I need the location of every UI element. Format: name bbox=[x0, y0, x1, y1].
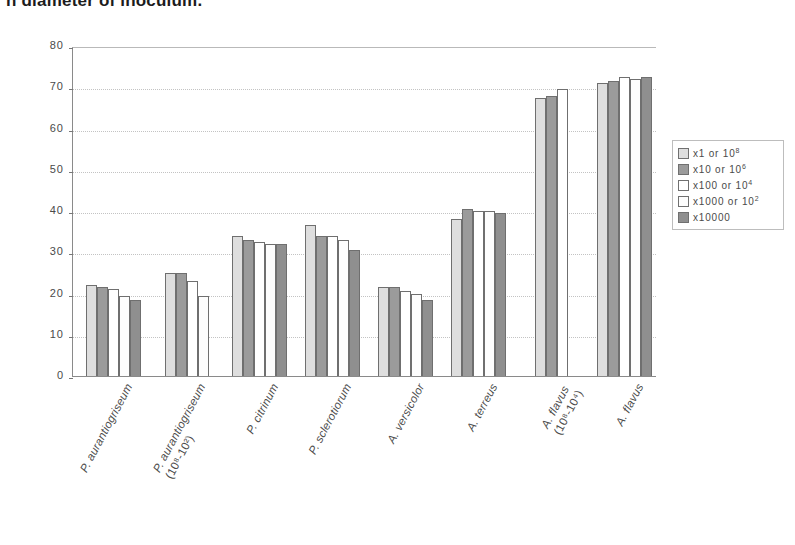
legend-item[interactable]: x1 or 108 bbox=[678, 146, 779, 160]
bar bbox=[451, 219, 462, 376]
x-axis-label: P. sclerotiorum bbox=[305, 381, 354, 457]
bar bbox=[276, 244, 287, 376]
bar bbox=[546, 96, 557, 377]
y-tick-label: 20 bbox=[24, 287, 64, 299]
y-tick-label: 50 bbox=[24, 163, 64, 175]
bar-group bbox=[451, 48, 506, 376]
bar bbox=[176, 273, 187, 376]
x-axis-labels: P. aurantiogriseumP. aurantiogriseum(10⁸… bbox=[72, 381, 656, 541]
y-tick-label: 70 bbox=[24, 80, 64, 92]
figure-panel: n diameter of inoculum. Colony diameter … bbox=[0, 0, 795, 545]
bar bbox=[400, 291, 411, 376]
x-axis-label: A. flavus bbox=[612, 381, 646, 428]
bar bbox=[130, 300, 141, 376]
bar bbox=[349, 250, 360, 376]
bar bbox=[378, 287, 389, 376]
bar bbox=[597, 83, 608, 376]
bar bbox=[316, 236, 327, 376]
bar-group bbox=[305, 48, 360, 376]
bar-group bbox=[535, 48, 568, 376]
bar-group bbox=[86, 48, 141, 376]
bar bbox=[198, 296, 209, 376]
legend-label: x10000 bbox=[693, 212, 731, 223]
legend-label: x10 or 106 bbox=[693, 163, 747, 175]
bar bbox=[119, 296, 130, 376]
bar bbox=[338, 240, 349, 376]
bar bbox=[108, 289, 119, 376]
bar bbox=[484, 211, 495, 376]
bar bbox=[422, 300, 433, 376]
bar bbox=[619, 77, 630, 376]
bar bbox=[389, 287, 400, 376]
chart-legend: x1 or 108x10 or 106x100 or 104x1000 or 1… bbox=[672, 140, 784, 230]
x-axis-label: P. aurantiogriseum(10⁸-10²) bbox=[149, 381, 220, 481]
legend-swatch-icon bbox=[678, 180, 689, 191]
x-axis-label: P. citrinum bbox=[243, 381, 281, 436]
bar bbox=[187, 281, 198, 376]
y-tick-label: 40 bbox=[24, 204, 64, 216]
bar bbox=[86, 285, 97, 376]
bar bbox=[243, 240, 254, 376]
y-tick-label: 60 bbox=[24, 122, 64, 134]
bar bbox=[305, 225, 316, 376]
legend-item[interactable]: x1000 or 102 bbox=[678, 194, 779, 208]
legend-item[interactable]: x100 or 104 bbox=[678, 178, 779, 192]
legend-swatch-icon bbox=[678, 212, 689, 223]
y-tick-label: 10 bbox=[24, 328, 64, 340]
y-axis-ticks: 80706050403020100 bbox=[16, 47, 64, 377]
bar bbox=[97, 287, 108, 376]
legend-item[interactable]: x10 or 106 bbox=[678, 162, 779, 176]
plot-area bbox=[72, 47, 656, 377]
bar-groups bbox=[73, 48, 656, 376]
legend-swatch-icon bbox=[678, 148, 689, 159]
legend-label: x1 or 108 bbox=[693, 147, 740, 159]
bar bbox=[411, 294, 422, 377]
bar bbox=[254, 242, 265, 376]
bar bbox=[630, 79, 641, 376]
y-tick-label: 0 bbox=[24, 369, 64, 381]
legend-label: x100 or 104 bbox=[693, 179, 753, 191]
bar bbox=[327, 236, 338, 376]
bar bbox=[495, 213, 506, 376]
bar bbox=[608, 81, 619, 376]
bar-group bbox=[597, 48, 652, 376]
bar bbox=[473, 211, 484, 376]
x-axis-label: A. versicolor bbox=[384, 381, 427, 446]
legend-swatch-icon bbox=[678, 164, 689, 175]
bar bbox=[557, 89, 568, 376]
bar bbox=[265, 244, 276, 376]
x-axis-label: A. terreus bbox=[463, 381, 500, 433]
bar-group bbox=[165, 48, 209, 376]
bar bbox=[641, 77, 652, 376]
y-tick-label: 30 bbox=[24, 245, 64, 257]
legend-label: x1000 or 102 bbox=[693, 195, 759, 207]
x-axis-label: A. flavus(10⁸-10⁴) bbox=[538, 381, 586, 437]
y-tick-mark bbox=[69, 378, 73, 379]
bar bbox=[535, 98, 546, 376]
clipped-heading: n diameter of inoculum. bbox=[6, 0, 202, 7]
bar bbox=[232, 236, 243, 376]
bar bbox=[462, 209, 473, 376]
bar-group bbox=[232, 48, 287, 376]
x-axis-label: P. aurantiogriseum bbox=[76, 381, 135, 475]
bar bbox=[165, 273, 176, 376]
y-tick-label: 80 bbox=[24, 39, 64, 51]
legend-swatch-icon bbox=[678, 196, 689, 207]
bar-group bbox=[378, 48, 433, 376]
legend-item[interactable]: x10000 bbox=[678, 210, 779, 224]
